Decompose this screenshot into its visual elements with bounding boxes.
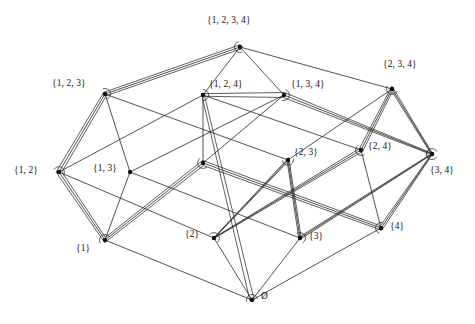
- lattice-node-24[interactable]: [359, 148, 363, 152]
- node-label-234: {2, 3, 4}: [383, 60, 417, 70]
- lattice-node-empty-set[interactable]: [250, 298, 254, 302]
- lattice-edge: [105, 240, 252, 300]
- lattice-node-14[interactable]: [201, 161, 205, 165]
- lattice-node-124[interactable]: [201, 93, 205, 97]
- node-label-empty-set: Ø: [261, 292, 268, 302]
- lattice-edge: [59, 95, 203, 172]
- edges-layer: [59, 47, 432, 300]
- node-label-2: {2}: [185, 230, 199, 240]
- lattice-node-13[interactable]: [128, 170, 132, 174]
- node-label-134: {1, 3, 4}: [291, 80, 325, 90]
- lattice-edge: [240, 47, 284, 95]
- node-label-1234: {1, 2, 3, 4}: [207, 16, 251, 26]
- lattice-edge: [252, 238, 300, 300]
- lattice-node-123[interactable]: [103, 92, 107, 96]
- lattice-edge: [130, 172, 300, 238]
- figure-root: {1, 2, 3, 4}{1, 2, 3}{1, 2, 4}{1, 3, 4}{…: [0, 0, 475, 324]
- lattice-edge: [105, 94, 130, 172]
- lattice-node-3[interactable]: [298, 236, 302, 240]
- lattice-edge: [392, 89, 432, 154]
- lattice-node-23[interactable]: [286, 158, 290, 162]
- lattice-node-134[interactable]: [282, 93, 286, 97]
- node-label-12: {1, 2}: [14, 166, 38, 176]
- lattice-node-2[interactable]: [212, 236, 216, 240]
- node-label-1: {1}: [76, 244, 90, 254]
- lattice-edge: [105, 94, 288, 160]
- lattice-edge: [203, 95, 361, 150]
- lattice-edge: [381, 154, 432, 228]
- highlighted-path-rail: [62, 49, 434, 300]
- lattice-edge: [59, 94, 105, 172]
- node-label-3: {3}: [309, 232, 323, 242]
- lattice-node-234[interactable]: [390, 87, 394, 91]
- lattice-node-34[interactable]: [430, 152, 434, 156]
- node-label-24: {2, 4}: [368, 142, 392, 152]
- node-label-34: {3, 4}: [430, 166, 454, 176]
- lattice-node-12[interactable]: [57, 170, 61, 174]
- node-label-23: {2, 3}: [294, 148, 318, 158]
- lattice-edge: [288, 160, 300, 238]
- lattice-diagram: [0, 0, 475, 324]
- lattice-node-4[interactable]: [379, 226, 383, 230]
- lattice-node-1234[interactable]: [238, 45, 242, 49]
- node-label-13: {1, 3}: [93, 164, 117, 174]
- node-label-4: {4}: [390, 222, 404, 232]
- lattice-node-1[interactable]: [103, 238, 107, 242]
- node-label-123: {1, 2, 3}: [52, 79, 86, 89]
- node-label-124: {1, 2, 4}: [209, 80, 243, 90]
- lattice-edge: [300, 154, 432, 238]
